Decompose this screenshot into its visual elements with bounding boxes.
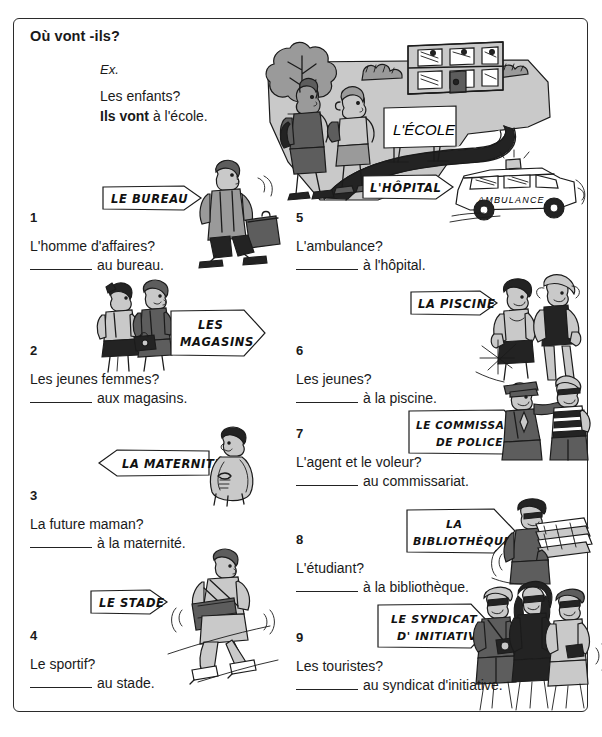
exercise-item-9: 9 Les touristes? au syndicat d'initiativ… xyxy=(296,631,503,693)
sign-syndicat-line1: LE SYNDICAT xyxy=(391,613,478,626)
item-4-number: 4 xyxy=(30,629,155,642)
item-2-answer-row: aux magasins. xyxy=(30,390,187,406)
item-4-question: Le sportif? xyxy=(30,656,155,672)
item-2-blank[interactable] xyxy=(30,391,92,403)
item-9-blank[interactable] xyxy=(296,678,358,690)
example-answer-bold: Ils vont xyxy=(100,108,149,124)
sign-la-piscine-label: LA PISCINE xyxy=(418,297,495,311)
example-answer-rest: à l'école. xyxy=(149,108,208,124)
item-8-question: L'étudiant? xyxy=(296,560,469,576)
item-7-number: 7 xyxy=(296,427,469,440)
item-3-number: 3 xyxy=(30,489,186,502)
item-2-answer: aux magasins. xyxy=(97,390,187,406)
exercise-item-6: 6 Les jeunes? à la piscine. xyxy=(296,344,437,406)
item-1-answer-row: au bureau. xyxy=(30,257,164,273)
item-6-number: 6 xyxy=(296,344,437,357)
item-5-number: 5 xyxy=(296,211,426,224)
sign-l-hopital: L'HÔPITAL xyxy=(360,172,456,202)
item-7-blank[interactable] xyxy=(296,474,358,486)
item-4-answer-row: au stade. xyxy=(30,675,155,691)
item-5-answer-row: à l'hôpital. xyxy=(296,257,426,273)
worksheet-page: Où vont -ils? Ex. Les enfants? Ils vont … xyxy=(0,0,602,737)
item-9-question: Les touristes? xyxy=(296,658,503,674)
item-6-question: Les jeunes? xyxy=(296,371,437,387)
art-athlete-skating xyxy=(168,548,290,684)
example-question: Les enfants? xyxy=(100,88,180,104)
item-7-answer: au commissariat. xyxy=(363,473,469,489)
item-8-number: 8 xyxy=(296,533,469,546)
exercise-item-7: 7 L'agent et le voleur? au commissariat. xyxy=(296,427,469,489)
item-4-answer: au stade. xyxy=(97,675,155,691)
sign-le-stade: LE STADE xyxy=(88,587,170,617)
item-2-question: Les jeunes femmes? xyxy=(30,371,187,387)
sign-le-bureau: LE BUREAU xyxy=(100,183,204,213)
exercise-item-3: 3 La future maman? à la maternité. xyxy=(30,489,186,551)
item-6-blank[interactable] xyxy=(296,391,358,403)
sign-le-stade-label: LE STADE xyxy=(99,596,165,610)
item-7-answer-row: au commissariat. xyxy=(296,473,469,489)
exercise-item-1: 1 L'homme d'affaires? au bureau. xyxy=(30,211,164,273)
item-3-answer-row: à la maternité. xyxy=(30,535,186,551)
item-8-blank[interactable] xyxy=(296,580,358,592)
example-label: Ex. xyxy=(100,62,119,77)
item-4-blank[interactable] xyxy=(30,676,92,688)
sign-les-magasins-line1: LES xyxy=(198,318,223,332)
item-9-number: 9 xyxy=(296,631,503,644)
item-3-blank[interactable] xyxy=(30,536,92,548)
item-5-answer: à l'hôpital. xyxy=(363,257,426,273)
sign-ecole-label: L'ÉCOLE xyxy=(393,121,456,138)
item-7-question: L'agent et le voleur? xyxy=(296,454,469,470)
item-9-answer-row: au syndicat d'initiative. xyxy=(296,677,503,693)
item-5-question: L'ambulance? xyxy=(296,238,426,254)
item-1-number: 1 xyxy=(30,211,164,224)
sign-le-bureau-label: LE BUREAU xyxy=(111,192,188,206)
item-8-answer: à la bibliothèque. xyxy=(363,579,469,595)
item-1-question: L'homme d'affaires? xyxy=(30,238,164,254)
sign-les-magasins-line2: MAGASINS xyxy=(180,335,254,349)
example-answer: Ils vont à l'école. xyxy=(100,108,208,124)
sign-la-maternite: LA MATERNITÉ xyxy=(96,447,212,479)
sign-l-hopital-label: L'HÔPITAL xyxy=(370,180,442,195)
item-5-blank[interactable] xyxy=(296,258,358,270)
art-policeman-thief xyxy=(502,378,590,460)
page-title: Où vont -ils? xyxy=(30,28,120,44)
item-6-answer-row: à la piscine. xyxy=(296,390,437,406)
item-2-number: 2 xyxy=(30,344,187,357)
item-1-answer: au bureau. xyxy=(97,257,164,273)
art-student-books xyxy=(500,500,592,584)
sign-la-piscine: LA PISCINE xyxy=(408,288,500,318)
item-8-answer-row: à la bibliothèque. xyxy=(296,579,469,595)
exercise-item-5: 5 L'ambulance? à l'hôpital. xyxy=(296,211,426,273)
exercise-item-4: 4 Le sportif? au stade. xyxy=(30,629,155,691)
item-3-question: La future maman? xyxy=(30,516,186,532)
art-ambulance: AMBULANCE xyxy=(450,158,584,228)
item-6-answer: à la piscine. xyxy=(363,390,437,406)
sign-bibliotheque-line1: LA xyxy=(446,518,463,531)
item-1-blank[interactable] xyxy=(30,258,92,270)
art-pregnant-woman xyxy=(204,428,266,506)
art-two-swimmers xyxy=(494,280,590,384)
item-9-answer: au syndicat d'initiative. xyxy=(363,677,503,693)
exercise-item-8: 8 L'étudiant? à la bibliothèque. xyxy=(296,533,469,595)
exercise-item-2: 2 Les jeunes femmes? aux magasins. xyxy=(30,344,187,406)
